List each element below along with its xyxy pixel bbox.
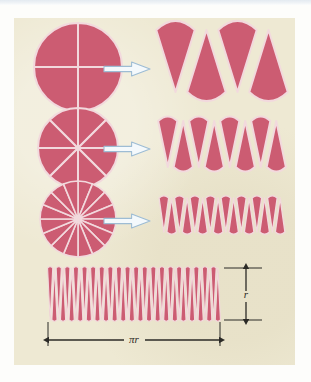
strip-sector: [156, 21, 194, 92]
circle-sector: [34, 67, 78, 111]
strip-sector: [249, 30, 287, 101]
figure-root: πrr: [0, 0, 311, 382]
figure-canvas: πrr: [0, 0, 311, 382]
strip-sector: [218, 21, 256, 92]
rectangle-approximation-group: [48, 267, 221, 321]
rearranged-strip-16: [159, 196, 285, 235]
circle-sector: [78, 67, 122, 111]
height-label-r: r: [244, 288, 249, 300]
rearranged-strip-4: [156, 21, 287, 101]
sector-rows-group: [34, 21, 288, 257]
rearranged-strip-8: [158, 116, 286, 171]
circle-sector: [34, 23, 78, 67]
width-label-pi-r: πr: [129, 333, 140, 345]
circle-sector: [78, 23, 122, 67]
strip-sector: [187, 30, 225, 101]
